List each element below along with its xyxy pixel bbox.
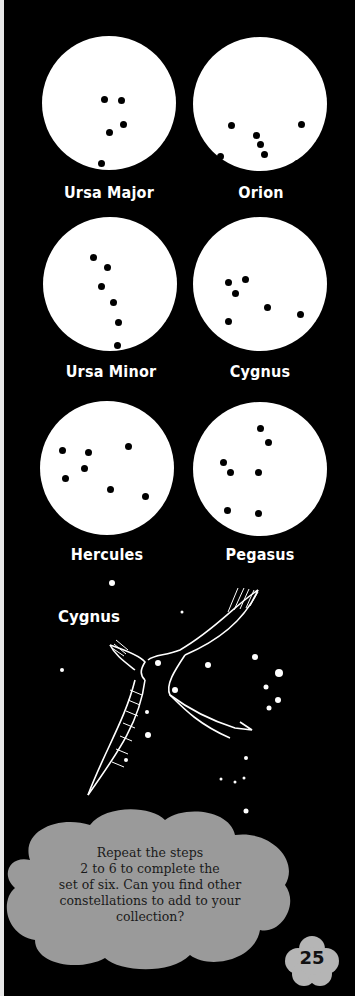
star-dot — [90, 254, 97, 261]
star-dot — [104, 264, 111, 271]
instruction-text: Repeat the steps 2 to 6 to complete the … — [20, 845, 280, 925]
star-dot — [101, 96, 108, 103]
star-dot — [98, 160, 105, 167]
disc-pegasus — [193, 402, 327, 536]
star-dot — [120, 121, 127, 128]
star-dot — [118, 97, 125, 104]
instruction-line: Repeat the steps — [20, 845, 280, 861]
star-dot — [81, 465, 88, 472]
star-dot — [220, 459, 227, 466]
star-dot — [257, 141, 264, 148]
disc-orion — [193, 37, 327, 171]
label-ursa-minor: Ursa Minor — [31, 362, 191, 381]
star-dot — [224, 507, 231, 514]
star-dot — [225, 279, 232, 286]
star-dot — [257, 425, 264, 432]
cygnus-swan-illustration — [0, 570, 355, 830]
star-dot — [294, 160, 301, 167]
star-dot — [85, 449, 92, 456]
disc-hercules — [40, 401, 174, 535]
star-dot — [62, 475, 69, 482]
star-dot — [261, 151, 268, 158]
star-dot — [265, 439, 272, 446]
star-dot — [106, 129, 113, 136]
label-hercules: Hercules — [27, 545, 187, 564]
star-dot — [255, 510, 262, 517]
instruction-line: set of six. Can you find other — [20, 877, 280, 893]
instruction-line: collection? — [20, 909, 280, 925]
instruction-line: 2 to 6 to complete the — [20, 861, 280, 877]
star-dot — [107, 486, 114, 493]
star-dot — [110, 299, 117, 306]
star-dot — [225, 318, 232, 325]
label-cygnus: Cygnus — [180, 362, 340, 381]
star-dot — [114, 342, 121, 349]
star-dot — [297, 311, 304, 318]
label-pegasus: Pegasus — [180, 545, 340, 564]
star-dot — [232, 290, 239, 297]
star-dot — [253, 132, 260, 139]
disc-cygnus — [193, 217, 327, 351]
disc-ursa-minor — [43, 217, 177, 351]
star-dot — [98, 283, 105, 290]
star-dot — [242, 276, 249, 283]
disc-ursa-major — [42, 36, 176, 170]
star-dot — [227, 469, 234, 476]
label-orion: Orion — [181, 183, 341, 202]
star-dot — [217, 153, 224, 160]
star-dot — [142, 493, 149, 500]
star-dot — [59, 447, 66, 454]
page-number: 25 — [284, 947, 340, 968]
instruction-line: constellations to add to your — [20, 893, 280, 909]
star-dot — [228, 122, 235, 129]
star-dot — [115, 319, 122, 326]
star-dot — [125, 443, 132, 450]
star-dot — [255, 469, 262, 476]
star-dot — [298, 121, 305, 128]
star-dot — [264, 304, 271, 311]
label-ursa-major: Ursa Major — [29, 183, 189, 202]
